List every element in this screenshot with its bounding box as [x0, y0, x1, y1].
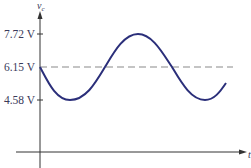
tick-label-min: 4.58 V	[4, 94, 36, 106]
x-axis-arrow-icon	[239, 150, 247, 155]
y-axis-label: vc	[37, 0, 45, 13]
waveform-diagram: 7.72 V 6.15 V 4.58 V vc t	[0, 0, 251, 168]
x-axis-label: t	[248, 149, 251, 160]
tick-label-dc: 6.15 V	[4, 61, 36, 73]
tick-label-max: 7.72 V	[4, 28, 36, 40]
